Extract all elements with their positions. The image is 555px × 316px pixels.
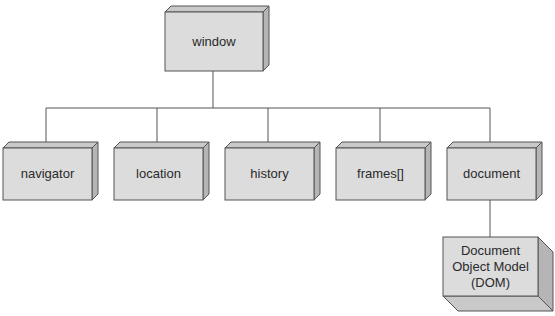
dom-label-line-1: Document — [461, 243, 520, 259]
node-location[interactable]: location — [114, 142, 209, 201]
dom-label-line-3: (DOM) — [471, 275, 510, 291]
node-window[interactable]: window — [165, 6, 269, 72]
node-frames[interactable]: frames[] — [336, 142, 431, 201]
node-label: document — [447, 148, 536, 200]
node-document[interactable]: document — [447, 142, 542, 201]
node-navigator[interactable]: navigator — [3, 142, 98, 201]
node-label: Document Object Model (DOM) — [443, 237, 538, 296]
node-label: history — [225, 148, 314, 200]
node-history[interactable]: history — [225, 142, 320, 201]
node-label: navigator — [3, 148, 92, 200]
node-label: location — [114, 148, 203, 200]
dom-label-line-2: Object Model — [452, 259, 529, 275]
node-label: window — [165, 12, 263, 71]
node-dom[interactable]: Document Object Model (DOM) — [443, 237, 555, 313]
node-label: frames[] — [336, 148, 425, 200]
